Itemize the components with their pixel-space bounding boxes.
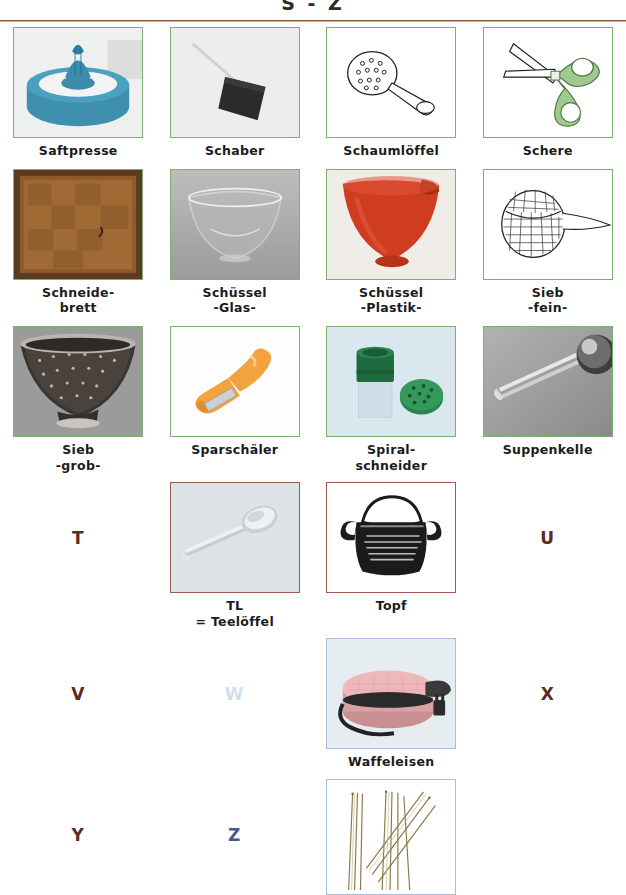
caption-line-2: schneider (355, 458, 427, 474)
grid-cell-schuessel-glas[interactable]: Schüssel -Glas- (157, 166, 314, 316)
plastic-bowl-icon (327, 170, 455, 279)
citrus-juicer-icon (14, 28, 142, 137)
caption-spiralschneider: Spiral- schneider (355, 442, 427, 473)
caption-topf: Topf (376, 598, 407, 614)
caption-line-1: TL (196, 598, 274, 614)
grid-cell-schuessel-plastik[interactable]: Schüssel -Plastik- (313, 166, 470, 316)
caption-suppenkelle: Suppenkelle (503, 442, 593, 458)
title-divider (0, 20, 626, 22)
caption-schuessel-glas: Schüssel -Glas- (203, 285, 267, 316)
grid-cell-empty (470, 776, 626, 895)
caption-schaber: Schaber (205, 143, 264, 159)
image-frame-sparschaeler[interactable] (170, 326, 300, 437)
image-frame-sieb-grob[interactable] (13, 326, 143, 437)
grid-row: T TL = Teelöffel (0, 479, 626, 629)
image-frame-skewers[interactable] (326, 779, 456, 895)
scissors-icon (484, 28, 612, 137)
caption-line-2: -fein- (528, 300, 567, 316)
caption-line-1: Schneide- (42, 285, 114, 301)
grid-cell-schaumloeffel[interactable]: Schaumlöffel (313, 24, 470, 159)
caption-line-1: Sieb (56, 442, 101, 458)
caption-line-1: Sparschäler (191, 442, 278, 457)
grid-cell-spiralschneider[interactable]: Spiral- schneider (313, 323, 470, 473)
caption-line-2: = Teelöffel (196, 614, 274, 630)
fine-sieve-icon (484, 170, 612, 279)
letter-marker-u: U (540, 482, 555, 593)
caption-waffeleisen: Waffeleisen (348, 754, 434, 770)
pot-icon (327, 483, 455, 592)
image-frame-schuessel-glas[interactable] (170, 169, 300, 280)
image-frame-sieb-fein[interactable] (483, 169, 613, 280)
grid-cell-saftpresse[interactable]: Saftpresse (0, 24, 157, 159)
image-frame-saftpresse[interactable] (13, 27, 143, 138)
grid-cell-letter-w: W (157, 635, 314, 770)
spiral-cutter-icon (327, 327, 455, 436)
grid-row: Saftpresse Schaber (0, 24, 626, 159)
skimmer-spoon-icon (327, 28, 455, 137)
scraper-icon (171, 28, 299, 137)
caption-line-2: -grob- (56, 458, 101, 474)
grid-cell-schere[interactable]: Schere (470, 24, 626, 159)
waffle-iron-icon (327, 639, 455, 748)
glass-bowl-icon (171, 170, 299, 279)
caption-schere: Schere (523, 143, 573, 159)
grid-row: Y Z (0, 776, 626, 895)
caption-sparschaeler: Sparschäler (191, 442, 278, 458)
caption-line-1: Waffeleisen (348, 754, 434, 769)
colander-icon (14, 327, 142, 436)
grid-cell-suppenkelle[interactable]: Suppenkelle (470, 323, 626, 473)
caption-schneidebrett: Schneide- brett (42, 285, 114, 316)
caption-schuessel-plastik: Schüssel -Plastik- (359, 285, 423, 316)
grid-row: Sieb -grob- Sparschäler (0, 323, 626, 473)
grid-cell-waffeleisen[interactable]: Waffeleisen (313, 635, 470, 770)
caption-line-1: Sieb (528, 285, 567, 301)
skewers-icon (327, 780, 455, 894)
cutting-board-icon (14, 170, 142, 279)
image-frame-schere[interactable] (483, 27, 613, 138)
grid-cell-letter-v: V (0, 635, 157, 770)
image-frame-topf[interactable] (326, 482, 456, 593)
caption-saftpresse: Saftpresse (39, 143, 118, 159)
page-title: S - Z (0, 0, 626, 14)
image-frame-suppenkelle[interactable] (483, 326, 613, 437)
image-frame-schneidebrett[interactable] (13, 169, 143, 280)
grid-cell-schaber[interactable]: Schaber (157, 24, 314, 159)
image-frame-schuessel-plastik[interactable] (326, 169, 456, 280)
caption-line-1: Schaumlöffel (343, 143, 439, 158)
caption-line-1: Schüssel (203, 285, 267, 301)
image-frame-schaber[interactable] (170, 27, 300, 138)
grid-cell-sieb-fein[interactable]: Sieb -fein- (470, 166, 626, 316)
caption-line-2: brett (42, 300, 114, 316)
letter-marker-x: X (541, 638, 555, 749)
grid-cell-letter-z: Z (157, 776, 314, 895)
caption-sieb-grob: Sieb -grob- (56, 442, 101, 473)
image-frame-teeloeffel[interactable] (170, 482, 300, 593)
vocabulary-grid: Saftpresse Schaber (0, 24, 626, 895)
caption-sieb-fein: Sieb -fein- (528, 285, 567, 316)
ladle-icon (484, 327, 612, 436)
caption-line-1: Saftpresse (39, 143, 118, 158)
letter-marker-t: T (72, 482, 85, 593)
grid-cell-topf[interactable]: Topf (313, 479, 470, 629)
caption-line-1: Topf (376, 598, 407, 613)
caption-line-1: Schere (523, 143, 573, 158)
grid-cell-teeloeffel[interactable]: TL = Teelöffel (157, 479, 314, 629)
letter-marker-z: Z (228, 779, 241, 890)
grid-cell-sieb-grob[interactable]: Sieb -grob- (0, 323, 157, 473)
caption-schaumloeffel: Schaumlöffel (343, 143, 439, 159)
image-frame-spiralschneider[interactable] (326, 326, 456, 437)
caption-line-2: -Glas- (203, 300, 267, 316)
grid-cell-schneidebrett[interactable]: Schneide- brett (0, 166, 157, 316)
grid-cell-sparschaeler[interactable]: Sparschäler (157, 323, 314, 473)
grid-cell-letter-t: T (0, 479, 157, 629)
caption-line-1: Schüssel (359, 285, 423, 301)
letter-marker-v: V (71, 638, 85, 749)
image-frame-waffeleisen[interactable] (326, 638, 456, 749)
grid-cell-skewers[interactable] (313, 776, 470, 895)
caption-line-2: -Plastik- (359, 300, 423, 316)
grid-cell-letter-u: U (470, 479, 626, 629)
grid-cell-letter-y: Y (0, 776, 157, 895)
letter-marker-y: Y (72, 779, 85, 890)
image-frame-schaumloeffel[interactable] (326, 27, 456, 138)
caption-line-1: Suppenkelle (503, 442, 593, 457)
